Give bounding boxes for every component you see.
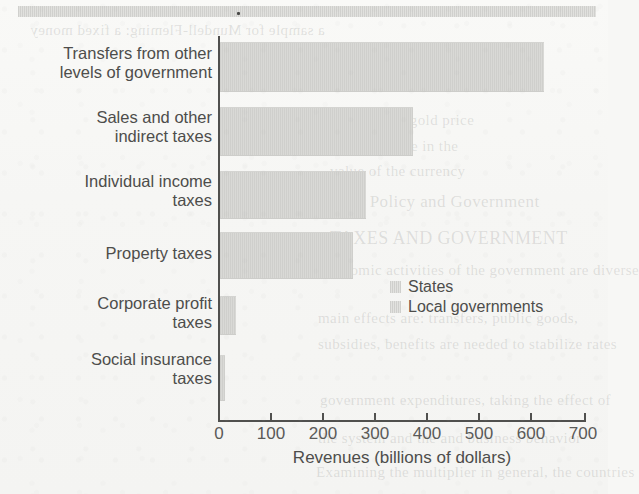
- x-tick-100: [270, 413, 272, 422]
- x-tick-label-300: 300: [353, 424, 397, 444]
- category-label-line: Property taxes: [0, 244, 212, 263]
- bar-corporate-profit: [220, 296, 236, 335]
- x-tick-label-600: 600: [509, 424, 553, 444]
- category-label-line: Social insurance: [0, 350, 212, 369]
- bar-individual-income: [220, 171, 366, 219]
- chart-legend: States Local governments: [390, 277, 543, 317]
- legend-item-states: States: [390, 277, 543, 297]
- category-label-line: taxes: [0, 313, 212, 332]
- x-tick-700: [584, 413, 586, 422]
- category-label-social-insurance: Social insurance taxes: [0, 350, 212, 388]
- x-tick-600: [530, 413, 532, 422]
- x-tick-500: [478, 413, 480, 422]
- bar-transfers: [220, 42, 544, 92]
- category-label-line: taxes: [0, 369, 212, 388]
- category-label-line: Corporate profit: [0, 294, 212, 313]
- bar-social-insurance: [220, 355, 225, 401]
- x-tick-label-200: 200: [301, 424, 345, 444]
- category-label-line: indirect taxes: [0, 127, 212, 146]
- x-tick-300: [374, 413, 376, 422]
- y-axis-line: [218, 36, 220, 421]
- category-label-line: Individual income: [0, 172, 212, 191]
- legend-label-local-governments: Local governments: [408, 298, 543, 316]
- x-tick-200: [322, 413, 324, 422]
- category-label-line: taxes: [0, 191, 212, 210]
- category-label-property: Property taxes: [0, 244, 212, 263]
- x-tick-400: [426, 413, 428, 422]
- category-label-transfers: Transfers from other levels of governmen…: [0, 44, 212, 82]
- legend-swatch-icon: [390, 301, 401, 313]
- x-tick-label-400: 400: [405, 424, 449, 444]
- legend-item-local-governments: Local governments: [390, 297, 543, 317]
- x-tick-label-500: 500: [457, 424, 501, 444]
- x-tick-label-0: 0: [197, 424, 241, 444]
- category-label-individual-income: Individual income taxes: [0, 172, 212, 210]
- x-tick-label-100: 100: [249, 424, 293, 444]
- x-tick-0: [218, 413, 220, 422]
- x-tick-label-700: 700: [561, 424, 605, 444]
- x-axis-title: Revenues (billions of dollars): [218, 448, 586, 468]
- category-label-line: Sales and other: [0, 108, 212, 127]
- category-label-line: Transfers from other: [0, 44, 212, 63]
- category-label-corporate-profit: Corporate profit taxes: [0, 294, 212, 332]
- category-label-line: levels of government: [0, 63, 212, 82]
- bar-sales-indirect: [220, 107, 413, 156]
- legend-swatch-icon: [390, 281, 401, 293]
- category-label-sales: Sales and other indirect taxes: [0, 108, 212, 146]
- legend-label-states: States: [408, 278, 453, 296]
- bar-property: [220, 232, 353, 279]
